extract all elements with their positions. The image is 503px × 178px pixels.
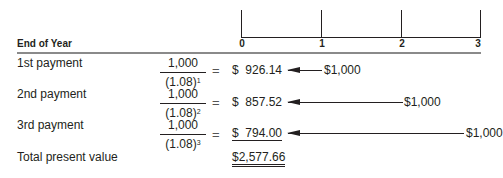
discount-arrow [288, 133, 464, 134]
denominator-base: (1.08) [165, 137, 196, 151]
equals-sign: = [212, 95, 220, 110]
discount-arrow [288, 102, 403, 103]
fraction-numerator: 1,000 [158, 87, 208, 101]
present-value: $ 857.52 [232, 95, 282, 109]
row-label: 3rd payment [17, 118, 84, 132]
fraction-bar [160, 72, 206, 73]
discount-fraction: 1,000 (1.08)2 [158, 87, 208, 120]
arrow-head-icon [287, 130, 300, 136]
header-divider [17, 52, 481, 54]
fraction-numerator: 1,000 [158, 118, 208, 132]
denominator-exponent: 3 [197, 139, 201, 146]
equals-sign: = [212, 127, 220, 142]
row-label: 2nd payment [17, 87, 86, 101]
fraction-denominator: (1.08)3 [158, 137, 208, 151]
denominator-exponent: 2 [197, 108, 201, 115]
fraction-bar [160, 103, 206, 104]
present-value: $ 794.00 [232, 126, 282, 141]
present-value: $ 926.14 [232, 63, 282, 77]
discount-arrow [288, 70, 322, 71]
timeline-tick-1 [321, 10, 322, 38]
fraction-bar [160, 134, 206, 135]
future-amount: $1,000 [324, 63, 361, 77]
denominator-exponent: 1 [197, 77, 201, 84]
timeline-tick-2 [401, 10, 402, 38]
row-label: 1st payment [17, 56, 82, 70]
tick-label-1: 1 [319, 38, 325, 49]
timeline-tick-3 [480, 10, 481, 38]
tick-label-0: 0 [239, 38, 245, 49]
tick-label-2: 2 [399, 38, 405, 49]
future-amount: $1,000 [404, 95, 441, 109]
end-of-year-header: End of Year [17, 38, 72, 49]
equals-sign: = [212, 63, 220, 78]
timeline-tick-0 [241, 10, 242, 38]
discount-fraction: 1,000 (1.08)1 [158, 56, 208, 89]
future-amount: $1,000 [466, 126, 503, 140]
tick-label-3: 3 [475, 38, 481, 49]
total-label: Total present value [17, 150, 118, 164]
timeline-axis [241, 37, 481, 38]
discount-fraction: 1,000 (1.08)3 [158, 118, 208, 151]
arrow-head-icon [287, 67, 300, 73]
fraction-numerator: 1,000 [158, 56, 208, 70]
total-present-value: $2,577.66 [232, 150, 285, 167]
arrow-head-icon [287, 99, 300, 105]
